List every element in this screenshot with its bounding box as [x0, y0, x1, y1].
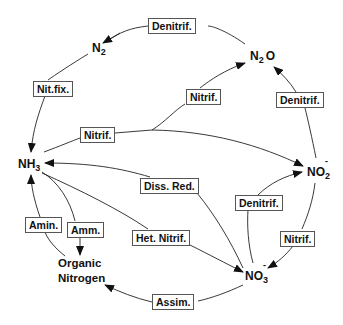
label-assim: Assim.: [152, 294, 194, 310]
label-nit-fix: Nit.fix.: [33, 81, 73, 97]
node-n2: N2: [92, 42, 106, 54]
n2-subscript: 2: [101, 47, 106, 57]
n2o-base-text: N: [250, 49, 259, 63]
label-denitrif-right: Denitrif.: [276, 92, 324, 108]
n2o-subscript: 2: [259, 55, 264, 65]
n2o-tail-text: O: [266, 49, 275, 63]
label-amin: Amin.: [25, 217, 62, 233]
n2-base-text: N: [92, 41, 101, 55]
organic-line1: Organic: [58, 256, 105, 271]
edge-amin-org-to-nh3: [31, 175, 65, 256]
node-n2o: N2O: [250, 50, 275, 62]
organic-line2: Nitrogen: [58, 271, 105, 286]
nh3-base-text: NH: [18, 157, 35, 171]
edge-nitrif-to-no2: [152, 130, 303, 166]
no3-base-text: NO: [245, 269, 263, 283]
edge-denitrif-no3-to-no2: [248, 172, 302, 263]
label-denitrif-top: Denitrif.: [148, 18, 196, 34]
node-no3: NO-3: [245, 270, 268, 282]
label-nitrif-lower: Nitrif.: [280, 231, 315, 247]
label-het-nitrif: Het. Nitrif.: [132, 230, 190, 246]
no2-subscript: 2: [325, 171, 330, 181]
no3-subscript: 3: [263, 275, 268, 285]
node-nh3: NH3: [18, 158, 40, 170]
node-no2: NO-2: [307, 166, 330, 178]
no2-base-text: NO: [307, 165, 325, 179]
label-nitrif-to-n2o: Nitrif.: [186, 89, 221, 105]
nitrogen-cycle-diagram: [0, 0, 343, 325]
label-amm: Amm.: [67, 222, 104, 238]
edge-amm-nh3-to-org: [42, 172, 80, 255]
node-organic-nitrogen: Organic Nitrogen: [58, 256, 105, 286]
label-denitrif-mid: Denitrif.: [235, 195, 283, 211]
label-diss-red: Diss. Red.: [140, 178, 199, 194]
edge-denitrif-no2-to-n2o: [274, 67, 316, 158]
nh3-subscript: 3: [35, 163, 40, 173]
label-nitrif-from-nh3: Nitrif.: [80, 127, 115, 143]
